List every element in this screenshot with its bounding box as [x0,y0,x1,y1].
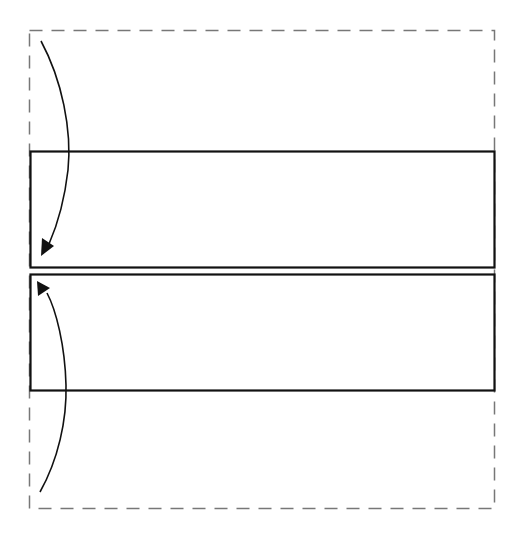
lower-panel [31,275,495,391]
dashed-outline [30,31,495,509]
diagram-svg [0,0,516,538]
upper-panel [31,152,495,268]
fold-diagram [0,0,516,538]
